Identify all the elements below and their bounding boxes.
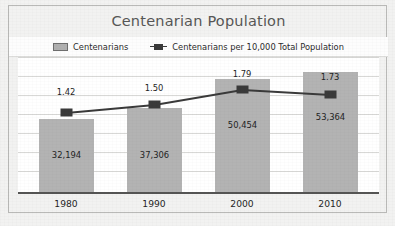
x-axis-label-1980: 1980: [54, 198, 77, 209]
chart-frame: Centenarian Population Centenarians Cent…: [8, 5, 387, 213]
point-value-label-2010: 1.73: [321, 72, 340, 82]
x-axis-label-2010: 2010: [318, 198, 341, 209]
x-axis-label-1990: 1990: [142, 198, 165, 209]
legend-item-rate[interactable]: Centenarians per 10,000 Total Population: [150, 42, 344, 52]
line-marker-icon: [150, 43, 167, 51]
line-path: [67, 90, 331, 113]
line-marker-1980[interactable]: [61, 109, 73, 117]
legend-label-rate: Centenarians per 10,000 Total Population: [172, 42, 344, 52]
point-value-label-1990: 1.50: [145, 83, 164, 93]
bar-swatch-icon: [53, 43, 68, 51]
x-axis-line: [18, 192, 379, 194]
line-marker-1990[interactable]: [149, 101, 161, 109]
point-value-label-1980: 1.42: [57, 87, 76, 97]
legend-item-centenarians[interactable]: Centenarians: [53, 42, 128, 52]
x-axis-label-2000: 2000: [230, 198, 253, 209]
chart-title: Centenarian Population: [9, 13, 388, 29]
scanned-page: Centenarian Population Centenarians Cent…: [0, 0, 395, 226]
legend-label-centenarians: Centenarians: [73, 42, 128, 52]
line-marker-2000[interactable]: [237, 86, 249, 94]
x-axis-labels: 1980 1990 2000 2010: [18, 196, 379, 214]
line-marker-2010[interactable]: [325, 91, 337, 99]
point-value-label-2000: 1.79: [233, 69, 252, 79]
chart-legend: Centenarians Centenarians per 10,000 Tot…: [9, 37, 388, 57]
plot-area: 32,194 37,306 50,454 53,364 1: [18, 57, 379, 192]
